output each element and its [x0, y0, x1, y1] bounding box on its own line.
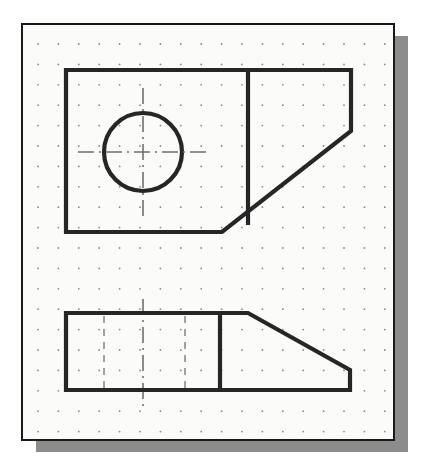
- grid-dot: [58, 247, 60, 249]
- grid-dot: [119, 308, 121, 310]
- grid-dot: [200, 329, 202, 331]
- grid-dot: [302, 186, 304, 188]
- grid-dot: [323, 410, 325, 412]
- grid-dot: [262, 308, 264, 310]
- grid-dot: [364, 370, 366, 372]
- grid-dot: [384, 370, 386, 372]
- grid-dot: [139, 166, 141, 168]
- grid-dot: [58, 227, 60, 229]
- grid-dot: [364, 308, 366, 310]
- grid-dot: [323, 145, 325, 147]
- grid-dot: [364, 43, 366, 45]
- grid-dot: [58, 104, 60, 106]
- grid-dot: [262, 410, 264, 412]
- grid-dot: [302, 349, 304, 351]
- grid-dot: [58, 288, 60, 290]
- grid-dot: [160, 268, 162, 270]
- grid-dot: [58, 84, 60, 86]
- grid-dot: [180, 125, 182, 127]
- grid-dot: [180, 186, 182, 188]
- grid-dot: [323, 43, 325, 45]
- grid-dot: [58, 329, 60, 331]
- grid-dot: [384, 64, 386, 66]
- grid-dot: [323, 206, 325, 208]
- grid-dot: [98, 64, 100, 66]
- grid-dot: [139, 84, 141, 86]
- grid-dot: [160, 166, 162, 168]
- grid-dot: [119, 64, 121, 66]
- grid-dot: [302, 370, 304, 372]
- grid-dot: [384, 145, 386, 147]
- grid-dot: [37, 186, 39, 188]
- grid-dot: [98, 431, 100, 433]
- grid-dot: [200, 410, 202, 412]
- grid-dot: [37, 410, 39, 412]
- grid-dot: [384, 410, 386, 412]
- grid-dot: [98, 410, 100, 412]
- grid-dot: [343, 186, 345, 188]
- grid-dot: [384, 84, 386, 86]
- grid-dot: [241, 410, 243, 412]
- grid-dot: [241, 206, 243, 208]
- grid-dot: [160, 227, 162, 229]
- grid-dot: [364, 166, 366, 168]
- grid-dot: [302, 308, 304, 310]
- grid-dot: [384, 288, 386, 290]
- grid-dot: [160, 206, 162, 208]
- grid-dot: [98, 125, 100, 127]
- grid-dot: [323, 125, 325, 127]
- grid-dot: [282, 206, 284, 208]
- grid-dot: [221, 206, 223, 208]
- grid-dot: [343, 166, 345, 168]
- grid-dot: [343, 410, 345, 412]
- grid-dot: [58, 186, 60, 188]
- grid-dot: [37, 268, 39, 270]
- grid-dot: [302, 431, 304, 433]
- grid-dot: [58, 349, 60, 351]
- grid-dot: [343, 125, 345, 127]
- grid-dot: [384, 166, 386, 168]
- grid-dot: [37, 431, 39, 433]
- grid-dot: [98, 186, 100, 188]
- grid-dot: [200, 370, 202, 372]
- grid-dot: [364, 206, 366, 208]
- grid-dot: [180, 206, 182, 208]
- grid-dot: [241, 431, 243, 433]
- grid-dot: [139, 410, 141, 412]
- grid-dot: [200, 104, 202, 106]
- grid-dot: [78, 43, 80, 45]
- grid-dot: [262, 431, 264, 433]
- grid-dot: [241, 247, 243, 249]
- grid-dot: [302, 84, 304, 86]
- grid-dot: [323, 349, 325, 351]
- grid-dot: [119, 104, 121, 106]
- grid-dot: [302, 288, 304, 290]
- grid-dot: [384, 308, 386, 310]
- grid-dot: [343, 431, 345, 433]
- grid-dot: [200, 64, 202, 66]
- grid-dot: [37, 329, 39, 331]
- grid-dot: [180, 308, 182, 310]
- grid-dot: [221, 145, 223, 147]
- grid-dot: [58, 431, 60, 433]
- grid-dot: [384, 390, 386, 392]
- grid-dot: [323, 104, 325, 106]
- grid-dot: [221, 227, 223, 229]
- grid-dot: [343, 370, 345, 372]
- grid-dot: [343, 206, 345, 208]
- grid-dot: [119, 247, 121, 249]
- grid-dot: [139, 206, 141, 208]
- grid-dot: [241, 308, 243, 310]
- grid-dot: [364, 390, 366, 392]
- grid-dot: [78, 370, 80, 372]
- grid-dot: [78, 288, 80, 290]
- grid-dot: [241, 84, 243, 86]
- grid-dot: [221, 308, 223, 310]
- grid-dot: [139, 268, 141, 270]
- grid-dot: [139, 288, 141, 290]
- grid-dot: [180, 43, 182, 45]
- grid-dot: [343, 308, 345, 310]
- grid-dot: [282, 349, 284, 351]
- grid-dot: [200, 308, 202, 310]
- grid-dot: [302, 145, 304, 147]
